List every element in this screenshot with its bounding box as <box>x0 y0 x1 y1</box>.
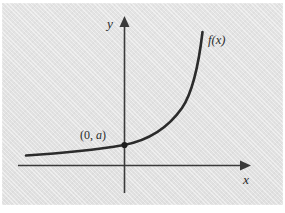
y-axis-label: y <box>105 16 113 31</box>
x-axis-group <box>18 161 251 171</box>
figure-root: y x f(x) (0, a) <box>0 0 285 213</box>
x-axis-label: x <box>242 172 249 187</box>
function-label: f(x) <box>208 33 225 47</box>
y-intercept-point <box>121 142 127 148</box>
x-axis-arrowhead <box>240 161 251 171</box>
graph-canvas: y x f(x) (0, a) <box>0 0 285 213</box>
y-intercept-label: (0, a) <box>80 128 106 142</box>
y-intercept-label-open: (0, <box>80 128 96 142</box>
function-curve <box>26 32 203 156</box>
y-axis-arrowhead <box>120 16 130 27</box>
y-intercept-label-close: ) <box>102 128 106 142</box>
y-axis-group <box>120 16 130 193</box>
